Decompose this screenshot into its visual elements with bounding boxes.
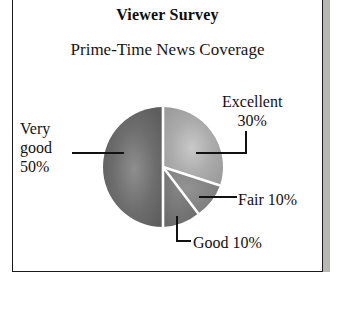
leader-line-excellent-vertical (245, 131, 247, 154)
slice-label-excellent-percent: 30% (222, 111, 282, 130)
chart-subtitle: Prime-Time News Coverage (12, 40, 323, 60)
slice-label-very-good-line3: 50% (20, 157, 52, 176)
page-background (0, 272, 337, 282)
slice-label-very-good: Very good 50% (20, 119, 52, 176)
slice-label-excellent: Excellent 30% (222, 92, 282, 130)
chart-screenshot: Viewer Survey Prime-Time News Coverage (0, 0, 337, 320)
slice-label-fair: Fair 10% (238, 190, 297, 209)
leader-line-fair (199, 196, 237, 198)
chart-title: Viewer Survey (12, 6, 323, 24)
pie-svg (101, 105, 225, 229)
slice-label-good: Good 10% (193, 233, 262, 252)
leader-line-very-good (72, 152, 124, 154)
leader-line-good-horizontal (176, 240, 191, 242)
leader-line-good-vertical (176, 216, 178, 241)
pie-slice-very-good (103, 107, 163, 227)
slice-label-very-good-line1: Very (20, 119, 52, 138)
slice-label-excellent-name: Excellent (222, 93, 282, 110)
leader-line-excellent-horizontal (196, 152, 247, 154)
slice-label-very-good-line2: good (20, 138, 52, 157)
pie-chart (101, 105, 225, 229)
